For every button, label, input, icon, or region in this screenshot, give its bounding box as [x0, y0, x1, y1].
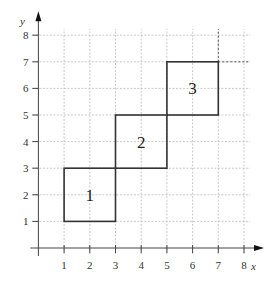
y-axis-arrow-icon [35, 11, 41, 21]
tick-labels: 1234567812345678 [23, 29, 247, 271]
y-tick-label: 5 [23, 109, 29, 121]
y-tick-label: 2 [23, 189, 29, 201]
y-tick-label: 6 [23, 82, 29, 94]
square-label: 3 [188, 79, 197, 98]
x-tick-label: 7 [216, 259, 222, 271]
x-tick-label: 1 [61, 259, 67, 271]
x-axis-arrow-icon [254, 245, 264, 251]
square-label: 2 [137, 133, 146, 152]
grid-plot: 123 1234567812345678 x y [0, 0, 270, 287]
coordinate-diagram: 123 1234567812345678 x y [0, 0, 270, 287]
x-tick-label: 3 [113, 259, 119, 271]
x-tick-label: 4 [138, 259, 144, 271]
x-axis-label: x [250, 260, 256, 272]
square-label: 1 [86, 186, 95, 205]
x-tick-label: 5 [164, 259, 170, 271]
x-tick-label: 2 [87, 259, 93, 271]
axes [30, 11, 264, 256]
x-tick-label: 6 [190, 259, 196, 271]
squares: 123 [64, 29, 250, 221]
y-axis-label: y [19, 15, 25, 27]
y-tick-label: 3 [23, 162, 29, 174]
x-tick-label: 8 [241, 259, 247, 271]
y-tick-label: 4 [23, 136, 29, 148]
y-tick-label: 8 [23, 29, 29, 41]
y-tick-label: 7 [23, 56, 29, 68]
y-tick-label: 1 [23, 215, 29, 227]
